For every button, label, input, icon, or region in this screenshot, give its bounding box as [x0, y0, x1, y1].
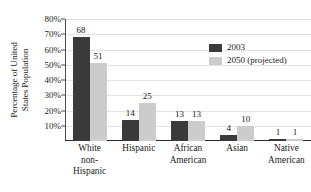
- bar-group: 410: [220, 19, 254, 141]
- y-axis-tick-label: 20%: [36, 106, 61, 115]
- x-axis-category-label-line: American: [256, 155, 311, 167]
- bars-layer: 68511425131341011: [65, 19, 311, 141]
- y-axis-tick-mark: [61, 110, 65, 111]
- bar: [122, 120, 139, 141]
- x-axis-category-label-line: Native: [256, 143, 311, 155]
- x-axis-category-label: NativeAmerican: [256, 143, 311, 166]
- legend-label-2003: 2003: [227, 43, 245, 52]
- bar-value-label: 10: [233, 115, 258, 124]
- y-axis-tick-label: 10%: [36, 121, 61, 130]
- bar-group: 1313: [171, 19, 205, 141]
- bar: [90, 63, 107, 141]
- y-axis-tick-mark: [61, 34, 65, 35]
- bar: [286, 139, 303, 141]
- bar: [188, 121, 205, 141]
- bar-value-label: 25: [135, 92, 160, 101]
- bar: [237, 126, 254, 141]
- y-axis-tick-label: 30%: [36, 91, 61, 100]
- y-axis-tick-label: 60%: [36, 45, 61, 54]
- y-axis-tick-label: 70%: [36, 30, 61, 39]
- y-axis-tick-mark: [61, 64, 65, 65]
- y-axis-tick-mark: [61, 19, 65, 20]
- bar: [220, 135, 237, 141]
- y-axis-tick-mark: [61, 95, 65, 96]
- bar-group: 11: [269, 19, 303, 141]
- y-axis-tick-mark: [61, 49, 65, 50]
- bar-group: 6851: [73, 19, 107, 141]
- bar-value-label: 68: [69, 26, 94, 35]
- y-axis-title-line-1: Percentage of United: [9, 42, 20, 118]
- y-axis-tick-labels: 10%20%30%40%50%60%70%80%: [36, 19, 61, 141]
- x-axis-category-label-line: American: [157, 155, 218, 167]
- x-axis-category-label-line: non-: [59, 155, 120, 167]
- y-axis-tick-label: 50%: [36, 60, 61, 69]
- legend-swatch-icon-2003: [209, 44, 222, 52]
- legend-swatch-icon-2050: [209, 57, 222, 65]
- bar-chart: Percentage of United States Population 1…: [0, 0, 311, 192]
- bar: [139, 103, 156, 141]
- bar-group: 1425: [122, 19, 156, 141]
- bar-value-label: 51: [86, 52, 111, 61]
- y-axis-tick-mark: [61, 80, 65, 81]
- bar-value-label: 13: [184, 110, 209, 119]
- legend-item-2003: 2003: [209, 42, 287, 53]
- y-axis-tick-mark: [61, 125, 65, 126]
- bar: [269, 139, 286, 141]
- legend-item-2050: 2050 (projected): [209, 55, 287, 66]
- bar-value-label: 1: [282, 128, 307, 137]
- y-axis-tick-label: 80%: [36, 15, 61, 24]
- y-axis-title-line-2: States Population: [20, 42, 31, 118]
- bar: [171, 121, 188, 141]
- y-axis-title: Percentage of United States Population: [0, 0, 40, 160]
- x-axis-category-labels: Whitenon-HispanicHispanicAfricanAmerican…: [65, 143, 311, 192]
- chart-legend: 2003 2050 (projected): [209, 42, 287, 68]
- legend-label-2050: 2050 (projected): [227, 56, 287, 65]
- y-axis-tick-label: 40%: [36, 76, 61, 85]
- x-axis-category-label-line: Hispanic: [59, 166, 120, 178]
